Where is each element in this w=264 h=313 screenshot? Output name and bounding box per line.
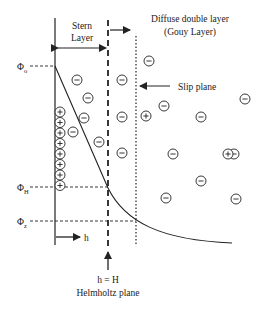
stern-positive-ion — [55, 128, 65, 138]
negative-ion — [83, 93, 93, 103]
h-axis-label: h — [84, 233, 89, 243]
negative-ion — [231, 194, 241, 204]
positive-ion — [223, 149, 233, 159]
stern-positive-ion — [55, 139, 65, 149]
helmholtz-plane-label: Helmholtz plane — [76, 288, 139, 298]
negative-ion — [72, 75, 82, 85]
negative-ion — [68, 127, 78, 137]
stern-positive-ion — [55, 170, 65, 180]
stern-label-1: Stern — [72, 21, 92, 31]
negative-ion — [168, 149, 178, 159]
negative-ion — [117, 112, 127, 122]
h-equals-H-label: h = H — [97, 275, 119, 285]
negative-ion — [196, 176, 206, 186]
positive-ion — [141, 111, 151, 121]
stern-positive-ion — [55, 118, 65, 128]
negative-ion — [117, 75, 127, 85]
negative-ion — [159, 101, 169, 111]
stern-label-2: Layer — [71, 33, 94, 43]
potential-curve — [55, 66, 232, 243]
negative-ion — [79, 113, 89, 123]
negative-ion — [161, 193, 171, 203]
electric-double-layer-diagram: Stern Layer Diffuse double layer (Gouy L… — [0, 0, 264, 313]
negative-ion — [144, 56, 154, 66]
negative-ion — [240, 94, 250, 104]
diffuse-label-2: (Gouy Layer) — [164, 27, 216, 38]
stern-positive-ion — [55, 160, 65, 170]
stern-positive-ion — [55, 107, 65, 117]
diffuse-label-1: Diffuse double layer — [151, 14, 230, 24]
negative-ion — [196, 112, 206, 122]
negative-ion — [117, 148, 127, 158]
phi0-label: Φo — [17, 62, 27, 74]
phiZ-label: Φz — [17, 217, 27, 229]
ion-group — [55, 56, 250, 204]
negative-ion — [94, 137, 104, 147]
stern-positive-ion — [55, 149, 65, 159]
phiH-label: ΦH — [17, 183, 29, 195]
stern-positive-ion — [55, 181, 65, 191]
slip-plane-label: Slip plane — [178, 82, 216, 92]
